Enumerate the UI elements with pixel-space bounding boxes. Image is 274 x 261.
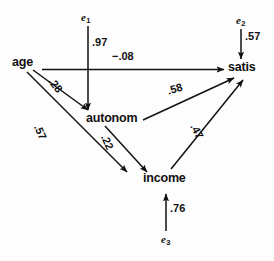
node-age: age	[12, 56, 33, 69]
path-arrow-income-to-satis	[171, 80, 243, 169]
node-autonom: autonom	[86, 112, 137, 125]
coefficient-age-to-satis: −.08	[112, 51, 134, 62]
error-term-e1: e1	[81, 12, 90, 23]
coefficient-e3-to-income: .76	[170, 203, 185, 214]
coefficient-e2-to-satis: .57	[245, 31, 260, 42]
error-term-e2-subscript: 2	[241, 19, 245, 28]
error-term-e3-subscript: 3	[166, 238, 170, 247]
error-term-e3: e3	[161, 234, 170, 245]
coefficient-e1-to-autonom: .97	[92, 37, 107, 48]
node-satis: satis	[228, 61, 256, 74]
path-diagram: age autonom income satis e1 e2 e3 −.08 .…	[0, 0, 274, 261]
error-term-e2: e2	[236, 15, 245, 26]
node-income: income	[143, 172, 186, 185]
error-term-e1-subscript: 1	[86, 16, 90, 25]
path-arrow-autonom-to-satis	[143, 78, 234, 120]
path-arrow-autonom-to-income	[105, 126, 147, 172]
